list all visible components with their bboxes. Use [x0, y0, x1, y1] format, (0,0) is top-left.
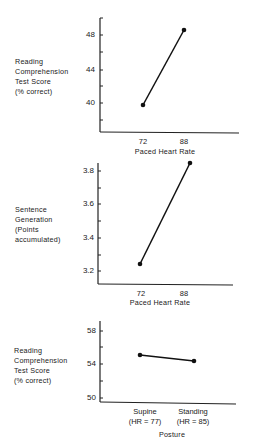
data-point	[192, 359, 197, 364]
y-tick-label: 50	[74, 393, 96, 402]
y-tick-label: 58	[74, 326, 96, 335]
y-tick-label: 54	[74, 359, 96, 368]
x-tick-label: Standing (HR = 85)	[168, 407, 218, 427]
data-point	[138, 353, 143, 358]
y-axis-label: Reading Comprehension Test Score (% corr…	[14, 346, 67, 386]
data-line	[140, 355, 194, 361]
chart-reading-posture: Reading Comprehension Test Score (% corr…	[0, 0, 254, 446]
x-tick-label: Supine (HR = 77)	[120, 407, 170, 427]
x-axis-label: Posture	[112, 430, 232, 439]
